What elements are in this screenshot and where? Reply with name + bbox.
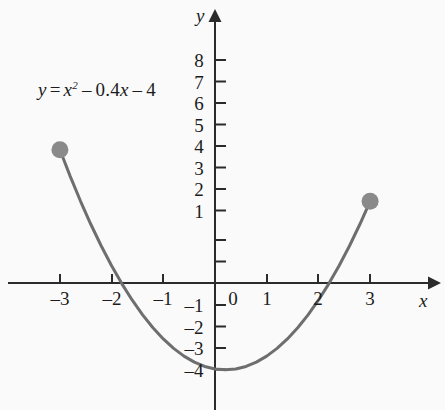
equation-minus-1: – bbox=[82, 79, 92, 100]
equation-variable: x bbox=[64, 79, 73, 100]
y-tick-label-7: 7 bbox=[189, 73, 209, 92]
y-tick-label-4: 4 bbox=[189, 137, 209, 156]
y-tick-label-2: 2 bbox=[189, 180, 209, 199]
equation-constant: 4 bbox=[146, 79, 156, 100]
x-tick-label-2: 2 bbox=[308, 289, 328, 308]
x-axis-arrowhead bbox=[428, 277, 441, 290]
y-tick-label-3: 3 bbox=[189, 159, 209, 178]
x-tick-label-1: 1 bbox=[257, 289, 277, 308]
equation-exponent: 2 bbox=[72, 79, 78, 91]
x-tick-label-3: 3 bbox=[360, 289, 380, 308]
graph-figure: y x –3 –2 –1 0 1 2 3 8 7 6 5 4 3 2 1 –1 … bbox=[0, 0, 445, 410]
x-axis-label: x bbox=[419, 291, 427, 310]
y-axis-ticks bbox=[215, 60, 226, 370]
x-tick-label--3: –3 bbox=[44, 289, 76, 308]
equation-variable-2: x bbox=[120, 79, 129, 100]
y-tick-label--1: –1 bbox=[179, 296, 209, 315]
equation-annotation: y=x2–0.4x–4 bbox=[38, 80, 156, 99]
x-tick-label--1: –1 bbox=[147, 289, 179, 308]
x-tick-label--2: –2 bbox=[96, 289, 128, 308]
equation-lhs: y bbox=[38, 79, 47, 100]
equation-minus-2: – bbox=[133, 79, 143, 100]
y-tick-label-5: 5 bbox=[189, 116, 209, 135]
equation-equals: = bbox=[50, 79, 61, 100]
curve-endpoint-right bbox=[362, 193, 379, 210]
y-tick-label-6: 6 bbox=[189, 94, 209, 113]
y-axis-arrowhead bbox=[209, 9, 222, 22]
parabola-plot bbox=[0, 0, 445, 410]
x-tick-label-0: 0 bbox=[223, 289, 243, 308]
y-tick-label--2: –2 bbox=[179, 318, 209, 337]
y-tick-label-8: 8 bbox=[189, 51, 209, 70]
y-axis-label: y bbox=[196, 6, 204, 25]
equation-coefficient: 0.4 bbox=[96, 79, 120, 100]
curve-endpoint-left bbox=[51, 141, 68, 158]
y-tick-label--4: –4 bbox=[179, 361, 209, 380]
y-tick-label--3: –3 bbox=[179, 339, 209, 358]
y-tick-label-1: 1 bbox=[189, 202, 209, 221]
